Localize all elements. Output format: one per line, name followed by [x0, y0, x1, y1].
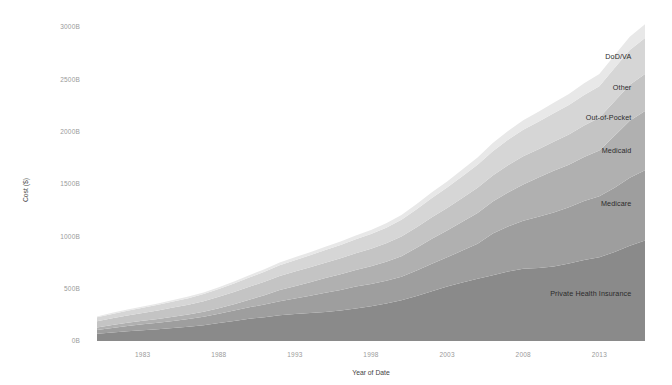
series-label: DoD/VA: [605, 52, 631, 61]
y-tick-label: 2500B: [60, 76, 80, 83]
y-tick-label: 0B: [72, 337, 80, 344]
series-label: Private Health Insurance: [550, 289, 631, 298]
x-tick-label: 2008: [516, 351, 531, 358]
y-tick-label: 1000B: [60, 233, 80, 240]
series-label: Out-of-Pocket: [586, 113, 632, 122]
series-label: Medicare: [601, 199, 631, 208]
chart-canvas: 0B500B1000B1500B2000B2500B3000B 19831988…: [0, 0, 672, 385]
x-tick-label: 1993: [287, 351, 302, 358]
x-axis-title: Year of Date: [352, 369, 390, 376]
stacked-area-chart: 0B500B1000B1500B2000B2500B3000B 19831988…: [0, 0, 672, 385]
y-tick-label: 1500B: [60, 180, 80, 187]
y-tick-label: 500B: [64, 285, 80, 292]
y-tick-label: 2000B: [60, 128, 80, 135]
y-axis-title: Cost ($): [22, 178, 30, 202]
x-tick-label: 1988: [211, 351, 226, 358]
x-tick-label: 2003: [439, 351, 454, 358]
y-tick-label: 3000B: [60, 23, 80, 30]
series-label: Medicaid: [602, 146, 632, 155]
series-label: Other: [613, 83, 632, 92]
x-tick-label: 1983: [135, 351, 150, 358]
x-tick-label: 1998: [363, 351, 378, 358]
x-tick-label: 2013: [592, 351, 607, 358]
